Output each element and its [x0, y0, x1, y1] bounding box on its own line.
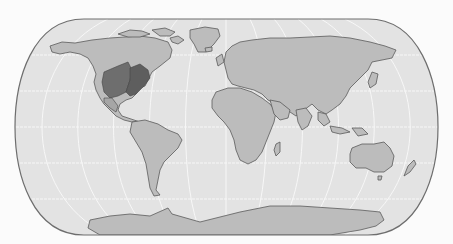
world-map [0, 0, 453, 244]
australia [350, 142, 394, 172]
